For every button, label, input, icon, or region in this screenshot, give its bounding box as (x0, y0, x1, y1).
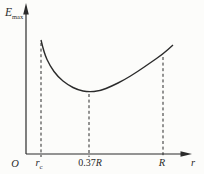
x-axis-label: r (191, 157, 196, 168)
y-axis-label: Emax (4, 6, 24, 20)
tick-label-rc-subscript: c (39, 163, 42, 171)
emax-curve (41, 40, 173, 92)
dashed-guides (41, 43, 163, 157)
figure-canvas: Emax O rc 0.37R R r (0, 0, 204, 174)
x-axis-arrow-icon (181, 151, 193, 157)
tick-label-R: R (158, 157, 166, 168)
tick-label-rc: rc (35, 157, 42, 171)
tick-label-037r-symbol: R (95, 157, 102, 168)
y-axis-arrow-icon (23, 3, 29, 15)
origin-label: O (11, 158, 19, 169)
y-axis-label-symbol: E (4, 6, 12, 18)
y-axis-label-subscript: max (12, 13, 24, 20)
tick-label-037r-number: 0.37 (78, 157, 96, 168)
figure-emax-vs-r: Emax O rc 0.37R R r (0, 0, 204, 174)
tick-label-037r: 0.37R (78, 157, 102, 168)
